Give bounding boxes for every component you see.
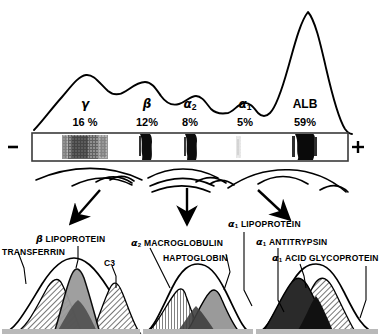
arrow-alpha1-panel [258, 190, 288, 218]
panel-arrows [72, 188, 288, 222]
peak-label-alpha1: α1 [238, 97, 251, 112]
label-alpha1-antitrypsin: α1 ANTITRYPSIN [256, 236, 327, 247]
peak-percent-alpha1: 5% [237, 116, 253, 128]
gel-strip [32, 133, 348, 161]
expansion-arcs [36, 168, 348, 192]
peak-percent-gamma: 16 % [72, 116, 97, 128]
label-haptoglobin: HAPTOGLOBIN [163, 253, 228, 263]
peak-percent-beta: 12% [136, 116, 158, 128]
detail-panel-beta [2, 246, 140, 334]
peak-label-beta: β [143, 97, 152, 111]
label-alpha1-acid-glycoprotein: α1 ACID GLYCOPROTEIN [272, 252, 379, 263]
electrophoresis-figure: γ 16 % β 12% α2 8% α1 5% ALB 59% β LIPOP… [0, 0, 382, 335]
detail-panel-alpha1 [244, 232, 378, 334]
peak-percent-albumin: 59% [294, 116, 316, 128]
label-c3: C3 [104, 258, 115, 268]
band-alpha1 [236, 136, 241, 158]
label-beta-lipoprotein: β LIPOPROTEIN [36, 233, 105, 244]
peak-label-gamma: γ [81, 97, 89, 111]
arrow-beta-panel [72, 190, 100, 222]
label-alpha1-lipoprotein: α1 LIPOPROTEIN [228, 218, 301, 229]
band-gamma [62, 135, 108, 159]
peak-label-albumin: ALB [293, 97, 318, 111]
label-alpha2-macroglobulin: α2 MACROGLOBULIN [131, 237, 223, 248]
figure-canvas [0, 0, 382, 335]
peak-label-alpha2: α2 [183, 97, 196, 112]
peak-percent-alpha2: 8% [182, 116, 198, 128]
label-transferrin: TRANSFERRIN [2, 247, 65, 257]
